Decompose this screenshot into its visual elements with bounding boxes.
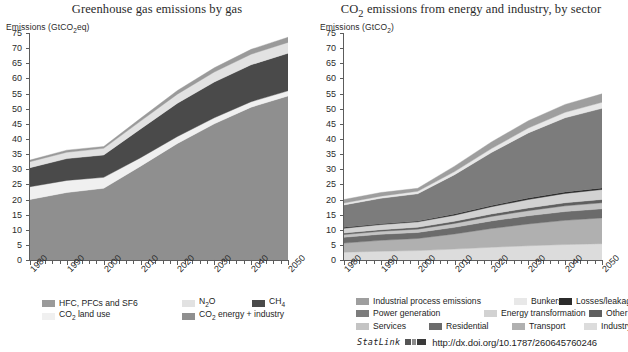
y-tick-mark (340, 169, 344, 170)
y-tick-label: 55 (314, 89, 336, 98)
statlink-url[interactable]: http://dx.doi.org/10.1787/260645760246 (432, 337, 597, 348)
legend-item-services[interactable]: Services (356, 320, 406, 332)
x-tick-mark-minor (447, 261, 448, 264)
y-tick-mark (26, 109, 30, 110)
y-tick-mark (26, 78, 30, 79)
y-tick-mark (26, 33, 30, 34)
x-tick-mark-minor (477, 261, 478, 264)
legend-item-transport[interactable]: Transport (512, 320, 565, 332)
x-tick-mark-minor (273, 261, 274, 264)
x-tick-mark-minor (236, 261, 237, 264)
y-tick-mark (340, 245, 344, 246)
legend-swatch-power_generation (356, 310, 369, 317)
legend-item-co2_land_use[interactable]: CO2 land use (42, 310, 110, 322)
legend-item-ch4[interactable]: CH4 (252, 297, 285, 309)
legend-label-other: Other (606, 309, 628, 318)
y-tick-label: 15 (314, 210, 336, 219)
chart-legend-co2: Industrial process emissionsBunkersLosse… (344, 295, 628, 333)
legend-item-losses_leakages[interactable]: Losses/leakages (559, 295, 628, 307)
legend-item-hfc_pfc_sf6[interactable]: HFC, PFCs and SF6 (42, 297, 138, 309)
legend-item-industrial_process[interactable]: Industrial process emissions (356, 295, 481, 307)
x-tick-mark-minor (550, 261, 551, 264)
legend-swatch-industry (584, 323, 597, 330)
stacked-area-co2-by-sector (344, 33, 602, 260)
y-tick-mark (26, 215, 30, 216)
y-tick-mark (340, 215, 344, 216)
y-tick-label: 30 (314, 165, 336, 174)
y-tick-label: 10 (0, 225, 22, 234)
y-tick-mark (26, 139, 30, 140)
x-tick-mark-minor (410, 261, 411, 264)
statlink-label: StatLink (357, 337, 400, 347)
y-tick-label: 50 (0, 104, 22, 113)
y-tick-label: 75 (314, 29, 336, 38)
legend-swatch-hfc_pfc_sf6 (42, 300, 55, 307)
legend-item-co2_energy_industry[interactable]: CO2 energy + industry (182, 310, 284, 322)
legend-label-services: Services (373, 322, 406, 331)
y-tick-label: 0 (314, 256, 336, 265)
legend-item-other[interactable]: Other (589, 308, 628, 320)
chart-panel-ghg-by-gas: Greenhouse gas emissions by gas Emission… (0, 0, 314, 352)
x-tick-label: 2050 (600, 253, 621, 274)
legend-item-industry[interactable]: Industry (584, 320, 628, 332)
y-tick-label: 35 (0, 150, 22, 159)
y-tick-mark (340, 230, 344, 231)
y-tick-mark (26, 48, 30, 49)
y-tick-label: 35 (314, 150, 336, 159)
legend-item-power_generation[interactable]: Power generation (356, 308, 440, 320)
legend-item-bunkers[interactable]: Bunkers (514, 295, 563, 307)
statlink[interactable]: StatLink http://dx.doi.org/10.1787/26064… (357, 336, 597, 348)
y-tick-mark (26, 63, 30, 64)
legend-item-n2o[interactable]: N2O (182, 297, 216, 309)
y-tick-label: 70 (314, 44, 336, 53)
x-tick-mark-minor (170, 261, 171, 264)
legend-label-ch4: CH4 (269, 297, 285, 309)
legend-swatch-co2_land_use (42, 313, 55, 320)
legend-label-residential: Residential (446, 322, 489, 331)
legend-label-n2o: N2O (199, 297, 216, 309)
y-tick-label: 20 (0, 195, 22, 204)
y-tick-mark (340, 94, 344, 95)
legend-swatch-bunkers (514, 298, 527, 305)
x-tick-mark-minor (558, 261, 559, 264)
y-tick-label: 40 (0, 134, 22, 143)
y-tick-label: 15 (0, 210, 22, 219)
y-tick-mark (26, 230, 30, 231)
x-tick-mark-minor (52, 261, 53, 264)
y-tick-mark (340, 139, 344, 140)
x-tick-mark-minor (244, 261, 245, 264)
legend-label-losses_leakages: Losses/leakages (576, 297, 628, 306)
y-tick-mark (340, 184, 344, 185)
legend-item-residential[interactable]: Residential (429, 320, 489, 332)
legend-swatch-co2_energy_industry (182, 313, 195, 320)
x-tick-mark-minor (440, 261, 441, 264)
legend-label-co2_energy_industry: CO2 energy + industry (199, 310, 284, 322)
y-tick-mark (26, 169, 30, 170)
y-tick-mark (340, 48, 344, 49)
y-tick-mark (340, 63, 344, 64)
legend-swatch-energy_transformation (484, 310, 497, 317)
legend-swatch-ch4 (252, 300, 265, 307)
x-tick-mark-minor (89, 261, 90, 264)
y-tick-label: 45 (0, 119, 22, 128)
x-tick-mark-minor (366, 261, 367, 264)
legend-label-co2_land_use: CO2 land use (59, 310, 110, 322)
x-tick-mark-minor (281, 261, 282, 264)
y-tick-mark (26, 124, 30, 125)
x-tick-mark-minor (200, 261, 201, 264)
y-tick-label: 0 (0, 256, 22, 265)
y-tick-mark (26, 245, 30, 246)
legend-swatch-losses_leakages (559, 298, 572, 305)
plot-area-ghg: 0510152025303540455055606570751980199020… (30, 33, 288, 260)
chart-legend-ghg: HFC, PFCs and SF6N2OCH4CO2 land useCO2 e… (30, 297, 314, 323)
x-tick-label: 2050 (286, 253, 307, 274)
y-tick-label: 65 (0, 59, 22, 68)
x-tick-mark-minor (207, 261, 208, 264)
y-tick-mark (340, 124, 344, 125)
y-tick-mark (340, 154, 344, 155)
y-tick-mark (26, 200, 30, 201)
legend-label-power_generation: Power generation (373, 309, 440, 318)
legend-swatch-services (356, 323, 369, 330)
legend-item-energy_transformation[interactable]: Energy transformation (484, 308, 586, 320)
stacked-area-ghg-by-gas (30, 33, 288, 260)
